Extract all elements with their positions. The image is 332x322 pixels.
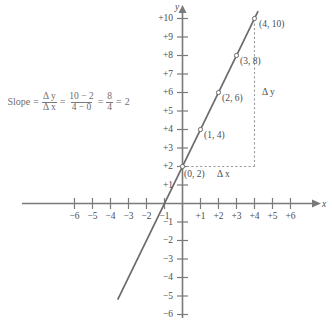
y-axis-label: y xyxy=(175,3,179,13)
y-tick-label-3: +3 xyxy=(141,144,173,154)
y-tick-label-4: +4 xyxy=(141,125,173,135)
data-point-0-2 xyxy=(180,164,184,168)
fraction-delta-y-delta-x: Δ y Δ x xyxy=(42,92,57,112)
y-tick-label-neg-3: −3 xyxy=(141,255,173,265)
fraction-3-numerator: 8 xyxy=(106,92,113,102)
equals-sign-1: = xyxy=(33,97,39,107)
delta-y-label: Δ y xyxy=(262,88,275,98)
point-label-1-4: (1, 4) xyxy=(204,131,225,141)
equals-sign-3: = xyxy=(98,97,104,107)
y-tick-label-10: +10 xyxy=(141,14,173,24)
y-tick-label-neg-6: −6 xyxy=(141,310,173,320)
y-tick-label-2: +2 xyxy=(141,162,173,172)
fraction-1-denominator: Δ x xyxy=(42,102,57,113)
fraction-rise-over-run: 10 − 2 4 − 0 xyxy=(68,92,94,112)
data-point-3-8 xyxy=(234,53,238,57)
y-tick-label-neg-5: −5 xyxy=(141,292,173,302)
fraction-2-numerator: 10 − 2 xyxy=(68,92,94,102)
y-tick-label-9: +9 xyxy=(141,33,173,43)
x-axis-arrowhead xyxy=(312,200,321,208)
point-label-3-8: (3, 8) xyxy=(240,57,261,67)
y-tick-label-1: +1 xyxy=(141,181,173,191)
delta-x-label: Δ x xyxy=(217,170,230,180)
fraction-3-denominator: 4 xyxy=(106,102,113,113)
y-tick-label-6: +6 xyxy=(141,88,173,98)
slope-result: 2 xyxy=(125,97,130,107)
point-label-2-6: (2, 6) xyxy=(222,94,243,104)
y-tick-label-5: +5 xyxy=(141,107,173,117)
fraction-eight-over-four: 8 4 xyxy=(106,92,113,112)
y-axis-arrowhead xyxy=(179,5,187,13)
y-tick-label-neg-4: −4 xyxy=(141,273,173,283)
data-point-1-4 xyxy=(198,127,202,131)
x-tick-label-6: +6 xyxy=(279,212,303,222)
y-tick-label-neg-2: −2 xyxy=(141,236,173,246)
equals-sign-2: = xyxy=(60,97,66,107)
slope-formula: Slope = Δ y Δ x = 10 − 2 4 − 0 = 8 4 = 2 xyxy=(6,92,131,112)
data-point-2-6 xyxy=(216,90,220,94)
slope-label: Slope xyxy=(8,97,31,107)
x-tick-label-neg-1: −1 xyxy=(153,212,177,222)
x-axis-label: x xyxy=(322,200,326,210)
point-label-4-10: (4, 10) xyxy=(259,20,284,30)
point-label-0-2: (0, 2) xyxy=(184,170,205,180)
slope-graph-figure: Slope = Δ y Δ x = 10 − 2 4 − 0 = 8 4 = 2… xyxy=(0,0,332,322)
fraction-1-numerator: Δ y xyxy=(42,92,57,102)
y-tick-label-7: +7 xyxy=(141,70,173,80)
equals-sign-4: = xyxy=(116,97,122,107)
data-point-4-10 xyxy=(252,16,256,20)
y-tick-label-8: +8 xyxy=(141,51,173,61)
fraction-2-denominator: 4 − 0 xyxy=(71,102,93,113)
